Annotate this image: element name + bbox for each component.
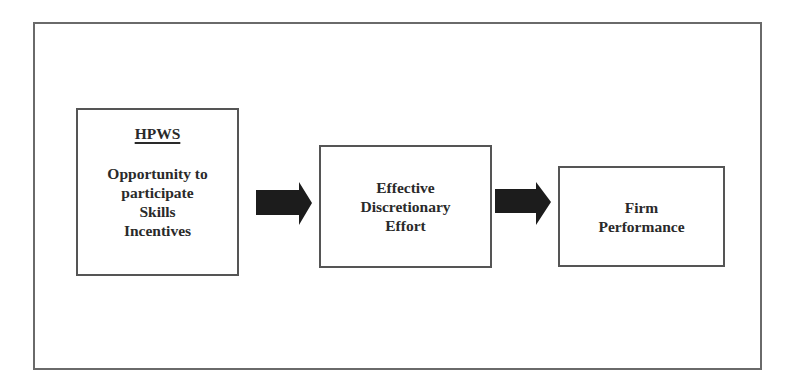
arrow-effort-to-performance-icon <box>493 180 553 228</box>
node-hpws-line: Opportunity to <box>107 164 207 183</box>
node-performance-line: Performance <box>598 217 684 236</box>
node-effort-line: Discretionary <box>360 197 450 216</box>
node-effective-discretionary-effort: Effective Discretionary Effort <box>319 145 492 268</box>
node-hpws-line: participate <box>121 183 193 202</box>
node-hpws-line: Incentives <box>124 221 191 240</box>
arrow-shape <box>495 182 551 225</box>
arrow-hpws-to-effort-icon <box>254 180 314 228</box>
node-firm-performance: Firm Performance <box>558 166 725 267</box>
node-hpws: HPWS Opportunity to participate Skills I… <box>76 108 239 276</box>
node-effort-line: Effort <box>385 216 425 235</box>
node-hpws-heading: HPWS <box>135 124 181 143</box>
node-effort-line: Effective <box>376 178 435 197</box>
node-performance-line: Firm <box>625 198 659 217</box>
node-hpws-line: Skills <box>139 202 175 221</box>
arrow-shape <box>256 182 312 225</box>
